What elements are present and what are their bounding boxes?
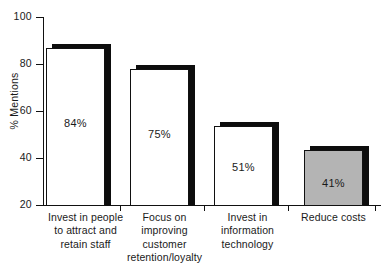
x-category-line: technology bbox=[195, 238, 300, 251]
bar-value-label-2: 51% bbox=[215, 161, 272, 173]
bar-face-3[interactable]: 41% bbox=[304, 150, 363, 206]
chart-title-clipped bbox=[40, 0, 240, 2]
bar-value-label-0: 84% bbox=[47, 117, 104, 129]
y-tick-60: 60 bbox=[36, 111, 44, 112]
y-tick-80: 80 bbox=[36, 64, 44, 65]
y-tick-20: 20 bbox=[36, 205, 44, 206]
y-tick-label-100: 100 bbox=[14, 10, 36, 22]
bar-face-2[interactable]: 51% bbox=[214, 126, 273, 206]
x-category-label-3: Reduce costs bbox=[281, 211, 384, 224]
x-category-line: information bbox=[195, 224, 300, 237]
bar-value-label-1: 75% bbox=[131, 128, 188, 140]
x-category-line: retention/loyalty bbox=[112, 251, 217, 264]
x-category-line: Reduce costs bbox=[281, 211, 384, 224]
y-tick-100: 100 bbox=[36, 17, 44, 18]
y-tick-label-60: 60 bbox=[20, 104, 36, 116]
y-tick-40: 40 bbox=[36, 158, 44, 159]
bar-face-1[interactable]: 75% bbox=[130, 69, 189, 206]
y-tick-label-80: 80 bbox=[20, 57, 36, 69]
bar-chart: % Mentions 100 80 60 40 20 84% 75% bbox=[0, 0, 384, 268]
y-tick-label-40: 40 bbox=[20, 151, 36, 163]
y-axis-title: % Mentions bbox=[8, 56, 20, 146]
bar-value-label-3: 41% bbox=[305, 177, 362, 189]
bar-face-0[interactable]: 84% bbox=[46, 48, 105, 206]
y-tick-label-20: 20 bbox=[20, 198, 36, 210]
